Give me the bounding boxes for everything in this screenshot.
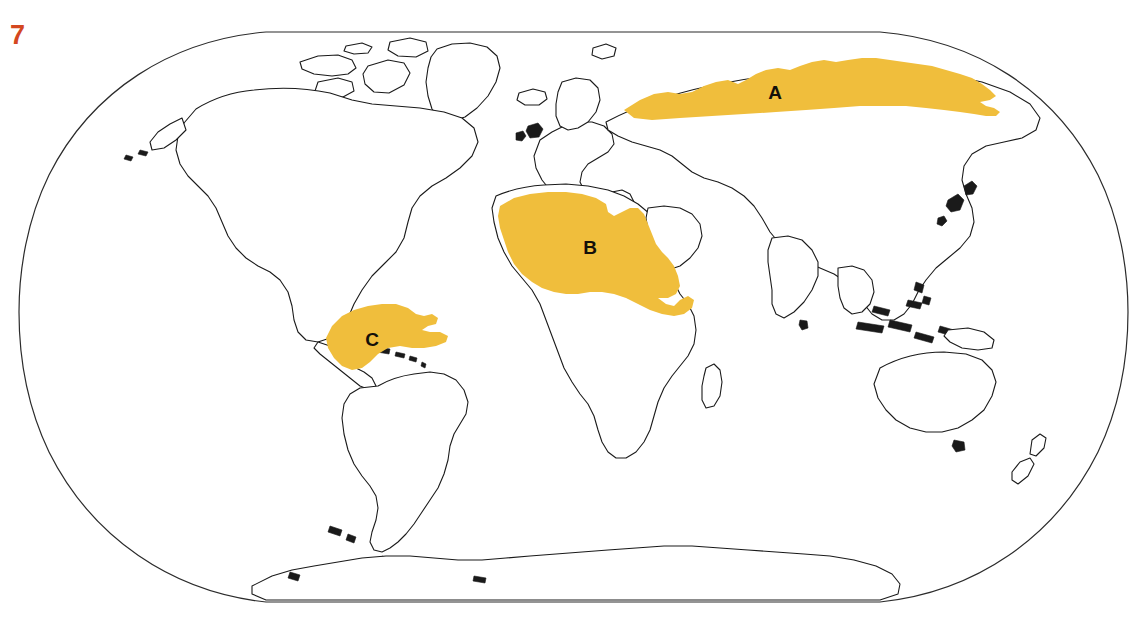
world-map-svg: A B C [0, 0, 1146, 625]
australia-outline [874, 352, 996, 432]
new-zealand-outline [1012, 434, 1046, 484]
sri-lanka-island [799, 320, 808, 330]
antarctica-outline [252, 546, 900, 600]
south-america-outline [342, 372, 468, 552]
svalbard-outline [592, 44, 616, 59]
region-b-label: B [583, 237, 597, 258]
new-guinea-outline [944, 328, 994, 350]
arctic-small-island-a [344, 43, 372, 54]
british-isles [516, 123, 543, 141]
canadian-arctic-islands [300, 55, 356, 76]
world-map-figure: A B C [0, 0, 1146, 625]
india-outline [768, 236, 818, 318]
north-america-outline [176, 88, 478, 342]
greenland-outline [426, 43, 500, 121]
tasmania-island [952, 440, 965, 452]
ellesmere-island [388, 38, 428, 57]
iceland-outline [517, 89, 547, 105]
region-c-label: C [365, 329, 379, 350]
baffin-island [363, 60, 410, 93]
aleutian-islands [124, 150, 148, 161]
region-a-label: A [768, 82, 782, 103]
madagascar-outline [702, 364, 722, 408]
